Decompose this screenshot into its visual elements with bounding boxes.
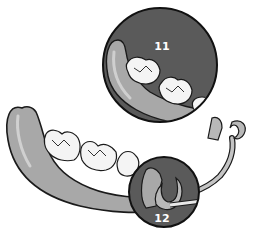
callout-12: 12 <box>129 157 210 227</box>
callout-12-label: 12 <box>154 212 169 225</box>
tooth-2 <box>81 142 117 171</box>
clasp-right <box>208 117 245 140</box>
callout-11: 11 <box>103 8 230 126</box>
callout-11-label: 11 <box>154 40 169 53</box>
denture-illustration: 11 12 <box>0 0 264 250</box>
